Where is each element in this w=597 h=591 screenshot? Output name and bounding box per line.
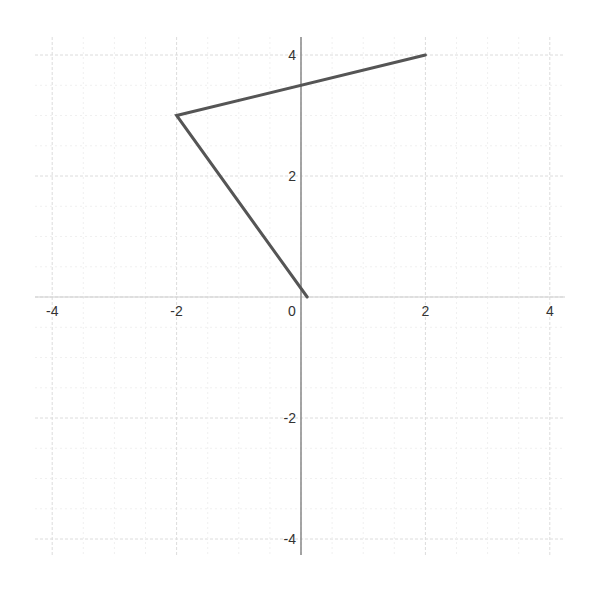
x-tick-label: -4 bbox=[46, 303, 59, 319]
x-tick-label: 4 bbox=[546, 303, 554, 319]
coordinate-plane: -4-202442-2-4 bbox=[0, 0, 597, 591]
y-tick-label: -2 bbox=[284, 410, 297, 426]
x-tick-label: 2 bbox=[422, 303, 430, 319]
grid-lines bbox=[35, 37, 565, 555]
y-tick-label: 2 bbox=[288, 168, 296, 184]
y-tick-label: 4 bbox=[288, 47, 296, 63]
y-tick-label: -4 bbox=[284, 531, 297, 547]
x-tick-label: -2 bbox=[170, 303, 183, 319]
x-tick-label: 0 bbox=[288, 303, 296, 319]
